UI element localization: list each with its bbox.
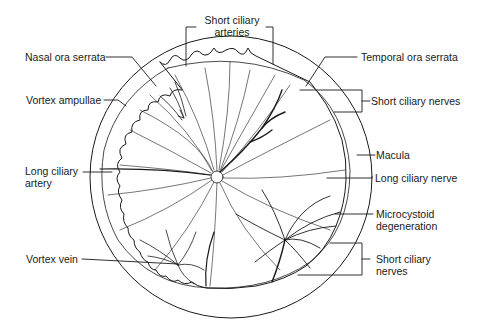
label-vortex-vein: Vortex vein — [26, 253, 78, 265]
label-line: degeneration — [376, 220, 437, 232]
label-short-ciliary-nerves-top: Short ciliary nerves — [371, 95, 460, 107]
outer-globe-outline — [90, 36, 372, 318]
long-ciliary-artery-vessel — [100, 169, 210, 175]
label-vortex-ampullae: Vortex ampullae — [26, 94, 101, 106]
label-macula: Macula — [376, 149, 410, 161]
label-short-ciliary-arteries: Short ciliary arteries — [196, 14, 268, 38]
microcystoid-fan — [236, 190, 340, 282]
label-temporal-ora-serrata: Temporal ora serrata — [361, 51, 458, 63]
label-line: Short ciliary — [196, 14, 268, 26]
ora-serrata-border — [117, 48, 346, 289]
label-line: Short ciliary — [376, 253, 431, 265]
label-line: nerves — [376, 265, 431, 277]
retina-diagram: Short ciliary arteries Nasal ora serrata… — [0, 0, 483, 331]
retina-boundary — [102, 61, 350, 288]
label-line: arteries — [196, 26, 268, 38]
nerve-fiber-lines — [108, 62, 345, 286]
label-line: Long ciliary — [25, 165, 78, 177]
label-nasal-ora-serrata: Nasal ora serrata — [25, 51, 106, 63]
label-line: artery — [25, 177, 78, 189]
label-long-ciliary-artery: Long ciliary artery — [25, 165, 78, 189]
label-line: Microcystoid — [376, 208, 437, 220]
label-short-ciliary-nerves-bottom: Short ciliary nerves — [376, 253, 431, 277]
label-microcystoid-degeneration: Microcystoid degeneration — [376, 208, 437, 232]
leader-lines — [82, 27, 375, 275]
optic-disc — [211, 171, 223, 183]
vortex-vein-fan — [140, 230, 214, 286]
label-long-ciliary-nerve: Long ciliary nerve — [375, 172, 457, 184]
